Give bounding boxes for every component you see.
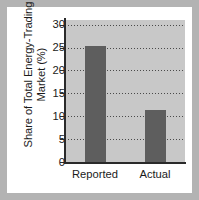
x-axis-line — [64, 162, 186, 164]
bar — [85, 46, 106, 162]
chart-card: Share of Total Energy-Trading Market (%)… — [7, 7, 192, 193]
y-axis-line — [64, 18, 66, 164]
figure-root: Share of Total Energy-Trading Market (%)… — [0, 0, 199, 200]
plot-area — [65, 20, 185, 162]
bar — [145, 110, 166, 162]
x-axis-tick-label: Reported — [72, 167, 118, 181]
x-axis-tick-label: Actual — [139, 167, 170, 181]
x-axis-tick-labels: ReportedActual — [65, 167, 185, 187]
bar-series — [65, 20, 185, 162]
